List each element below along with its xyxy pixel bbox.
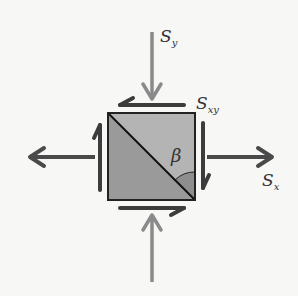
label-sx: Sx bbox=[262, 170, 280, 192]
label-sxy: Sxy bbox=[196, 93, 219, 115]
stress-element bbox=[108, 113, 195, 200]
stress-element-diagram: Sy Sxy Sx β bbox=[0, 0, 298, 296]
label-beta: β bbox=[170, 145, 181, 166]
label-sy: Sy bbox=[160, 26, 178, 48]
normal-stress-x-right-arrow bbox=[207, 148, 272, 166]
normal-stress-x-left-arrow bbox=[30, 148, 95, 166]
normal-stress-y-bottom-arrow bbox=[143, 215, 161, 282]
normal-stress-y-top-arrow bbox=[143, 32, 161, 99]
